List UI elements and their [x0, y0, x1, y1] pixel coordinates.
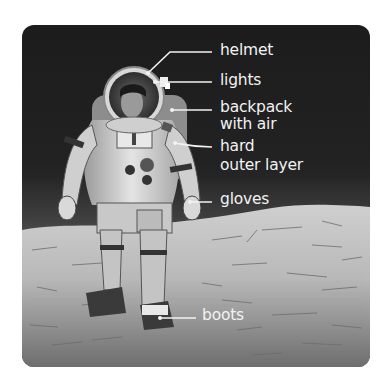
label-outer-layer-line1: hard [220, 138, 303, 155]
label-boots-text: boots [202, 306, 244, 324]
label-outer-layer: hard outer layer [220, 138, 303, 174]
label-outer-layer-line2: outer layer [220, 157, 303, 174]
label-gloves: gloves [220, 191, 269, 208]
label-backpack-line1: backpack [220, 99, 292, 116]
label-lights: lights [220, 72, 261, 89]
label-backpack: backpack with air [220, 99, 292, 133]
illustration-frame: helmet lights backpack with air hard out… [22, 25, 370, 367]
moon-scene [22, 25, 370, 367]
label-boots: boots [202, 307, 244, 324]
label-helmet-text: helmet [220, 41, 273, 59]
leader-helmet [148, 52, 212, 73]
label-helmet: helmet [220, 42, 273, 59]
label-gloves-text: gloves [220, 190, 269, 208]
label-backpack-line2: with air [220, 116, 292, 133]
label-lights-text: lights [220, 71, 261, 89]
